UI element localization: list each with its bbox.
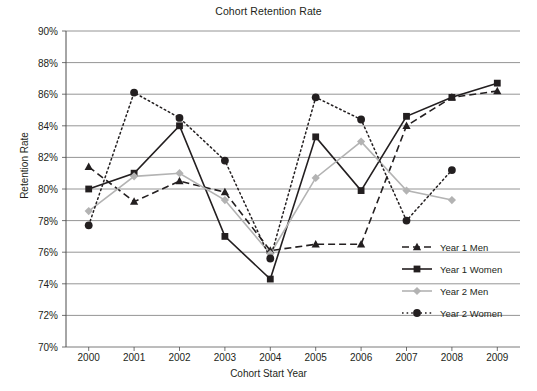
legend-item[interactable]: Year 2 Men bbox=[400, 280, 532, 302]
legend-item[interactable]: Year 1 Men bbox=[400, 236, 532, 258]
legend-item[interactable]: Year 1 Women bbox=[400, 258, 532, 280]
y-tick-label: 76% bbox=[0, 247, 58, 258]
data-point-marker bbox=[312, 133, 319, 140]
data-point-marker bbox=[85, 186, 92, 193]
chart-root: Cohort Retention Rate Retention Rate Coh… bbox=[0, 0, 537, 391]
data-point-marker bbox=[403, 113, 410, 120]
data-point-marker bbox=[493, 87, 501, 95]
legend-marker-icon bbox=[400, 307, 434, 319]
y-tick-label: 78% bbox=[0, 215, 58, 226]
data-point-marker bbox=[494, 80, 501, 87]
data-point-marker bbox=[175, 169, 183, 177]
y-tick-label: 80% bbox=[0, 184, 58, 195]
legend-marker bbox=[413, 287, 421, 295]
data-point-marker bbox=[357, 116, 365, 124]
legend-label: Year 2 Men bbox=[434, 286, 488, 297]
y-tick-label: 84% bbox=[0, 120, 58, 131]
legend-marker-icon bbox=[400, 263, 434, 275]
y-tick-label: 90% bbox=[0, 26, 58, 37]
legend-item[interactable]: Year 2 Women bbox=[400, 302, 532, 324]
legend-marker bbox=[414, 266, 421, 273]
legend-label: Year 2 Women bbox=[434, 308, 502, 319]
y-tick-label: 82% bbox=[0, 152, 58, 163]
data-point-marker bbox=[267, 276, 274, 283]
y-tick-label: 88% bbox=[0, 57, 58, 68]
y-tick-label: 70% bbox=[0, 342, 58, 353]
series-line bbox=[89, 91, 498, 251]
data-point-marker bbox=[403, 217, 411, 225]
y-tick-label: 72% bbox=[0, 310, 58, 321]
x-axis-label: Cohort Start Year bbox=[0, 368, 537, 379]
data-point-marker bbox=[448, 166, 456, 174]
y-tick-label: 74% bbox=[0, 278, 58, 289]
legend-label: Year 1 Men bbox=[434, 242, 488, 253]
legend-marker-icon bbox=[400, 285, 434, 297]
data-point-marker bbox=[222, 233, 229, 240]
data-point-marker bbox=[266, 255, 274, 263]
data-point-marker bbox=[312, 93, 320, 101]
data-point-marker bbox=[358, 187, 365, 194]
data-point-marker bbox=[221, 157, 229, 165]
chart-title: Cohort Retention Rate bbox=[0, 5, 537, 17]
chart-legend: Year 1 MenYear 1 WomenYear 2 MenYear 2 W… bbox=[400, 236, 532, 324]
data-point-marker bbox=[175, 177, 183, 185]
y-tick-label: 86% bbox=[0, 89, 58, 100]
data-point-marker bbox=[85, 221, 93, 229]
data-point-marker bbox=[176, 122, 183, 129]
data-point-marker bbox=[357, 240, 365, 248]
legend-marker-icon bbox=[400, 241, 434, 253]
data-point-marker bbox=[85, 163, 93, 171]
data-point-marker bbox=[402, 122, 410, 130]
data-point-marker bbox=[448, 196, 456, 204]
x-tick-label: 2009 bbox=[467, 352, 527, 363]
data-point-marker bbox=[449, 94, 456, 101]
legend-marker bbox=[413, 309, 421, 317]
legend-label: Year 1 Women bbox=[434, 264, 502, 275]
data-point-marker bbox=[130, 89, 138, 97]
data-point-marker bbox=[176, 114, 184, 122]
